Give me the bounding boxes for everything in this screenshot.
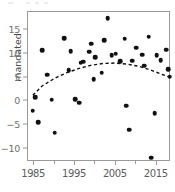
- data-point: [142, 63, 147, 68]
- y-axis: mandated −10−5051015: [0, 0, 27, 192]
- data-point: [40, 48, 45, 53]
- data-point: [166, 67, 171, 72]
- y-tick-label: 5: [14, 71, 20, 82]
- x-tick-mark-minor: [94, 161, 95, 164]
- x-tick-mark-minor: [135, 161, 136, 164]
- data-point: [52, 130, 57, 135]
- x-tick-label: 2005: [103, 168, 127, 179]
- data-point: [49, 98, 54, 103]
- data-point: [140, 52, 145, 57]
- plot-area: [27, 11, 170, 161]
- data-point: [124, 103, 129, 108]
- data-point: [91, 77, 96, 82]
- data-point: [102, 38, 107, 43]
- data-point: [130, 59, 135, 64]
- y-tick-label: 15: [9, 24, 21, 35]
- data-point: [87, 50, 92, 55]
- data-point: [154, 53, 159, 58]
- data-point: [36, 120, 41, 125]
- data-point: [146, 34, 151, 39]
- data-point: [33, 95, 38, 100]
- x-tick-label: 1995: [62, 168, 86, 179]
- x-axis: 1985199520052015: [27, 161, 170, 192]
- scatter-points: [28, 12, 169, 160]
- y-tick-label: −10: [1, 142, 20, 153]
- data-point: [149, 155, 154, 160]
- data-point: [123, 36, 128, 41]
- data-point: [81, 60, 86, 65]
- data-point: [152, 111, 157, 116]
- data-point: [77, 100, 82, 105]
- x-tick-label: 2015: [144, 168, 168, 179]
- data-point: [134, 45, 139, 50]
- data-point: [45, 72, 50, 77]
- data-point: [89, 42, 94, 47]
- data-point: [118, 59, 123, 64]
- x-tick-mark: [74, 161, 75, 165]
- x-tick-mark: [115, 161, 116, 165]
- data-point: [105, 16, 110, 21]
- data-point: [127, 127, 132, 132]
- data-point: [62, 36, 67, 41]
- y-tick-label: −5: [7, 118, 20, 129]
- data-point: [93, 55, 98, 60]
- x-tick-mark: [156, 161, 157, 165]
- data-point: [99, 70, 104, 75]
- x-tick-mark: [33, 161, 34, 165]
- data-point: [158, 58, 163, 63]
- data-point: [164, 47, 169, 52]
- data-point: [67, 68, 72, 73]
- x-tick-mark-minor: [54, 161, 55, 164]
- y-tick-label: 10: [9, 47, 21, 58]
- chart-figure: mandated −10−5051015 1985199520052015: [0, 0, 175, 192]
- data-point: [167, 74, 172, 79]
- x-tick-label: 1985: [21, 168, 45, 179]
- data-point: [69, 49, 74, 54]
- data-point: [114, 51, 119, 56]
- data-point: [31, 108, 36, 113]
- y-tick-label: 0: [14, 95, 20, 106]
